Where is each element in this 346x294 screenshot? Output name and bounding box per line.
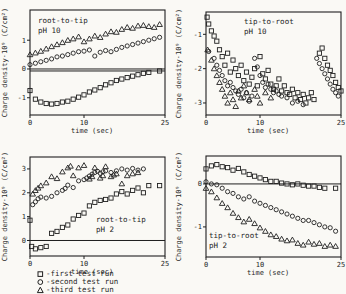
triangle-marker (217, 80, 223, 85)
triangle-marker (230, 97, 236, 102)
circle-marker (125, 44, 129, 48)
circle-marker (231, 191, 235, 195)
y-axis-label: Charge density·10⁹ (C/cm²) (1, 8, 9, 118)
square-marker (334, 186, 338, 190)
y-axis-label: Charge density·10⁹ (C/cm²) (175, 152, 183, 262)
circle-marker (120, 45, 124, 49)
circle-marker (242, 197, 246, 201)
square-marker (258, 176, 262, 180)
series-square (204, 162, 338, 190)
circle-marker (317, 61, 321, 65)
square-marker (247, 172, 251, 176)
y-tick-label: -2 (194, 65, 202, 73)
legend-item-label: -third test run (46, 286, 114, 294)
y-tick-label: 0 (198, 180, 202, 188)
circle-marker (217, 68, 221, 72)
y-tick-label: -1 (194, 223, 202, 231)
circle-marker (71, 185, 75, 189)
x-tick-label: 10 (80, 260, 88, 268)
triangle-marker (33, 50, 39, 55)
square-marker (39, 246, 43, 250)
circle-marker (334, 229, 338, 233)
triangle-marker (300, 242, 306, 247)
circle-marker (280, 210, 284, 214)
circle-marker (125, 168, 129, 172)
square-marker (109, 196, 113, 200)
chart-1-subtitle: pH 10 (244, 27, 267, 36)
circle-marker (131, 42, 135, 46)
triangle-marker (228, 90, 234, 95)
triangle-marker (322, 244, 328, 249)
triangle-marker (211, 66, 217, 71)
square-marker (290, 87, 294, 91)
circle-marker (266, 82, 270, 86)
chart-2: 321001025time (sec)Charge density·10⁹ (C… (1, 152, 169, 276)
chart-0: 10-101025time (sec)Charge density·10⁹ (C… (1, 8, 169, 135)
x-tick-label: 25 (337, 119, 345, 127)
square-marker (209, 29, 213, 33)
circle-marker (312, 221, 316, 225)
chart-0-title: root-to-tip (38, 16, 88, 25)
square-marker (131, 188, 135, 192)
circle-marker (39, 60, 43, 64)
square-marker (226, 51, 230, 55)
square-marker (274, 179, 278, 183)
circle-marker (93, 54, 97, 58)
triangle-marker (146, 24, 152, 29)
square-marker (50, 102, 54, 106)
triangle-marker (92, 33, 98, 38)
triangle-marker (333, 244, 339, 249)
circle-marker (55, 55, 59, 59)
square-marker (266, 68, 270, 72)
square-marker-icon (36, 270, 45, 278)
triangle-marker (230, 210, 236, 215)
x-tick-label: 10 (80, 119, 88, 127)
square-marker (307, 96, 311, 100)
triangle-marker (103, 31, 109, 36)
x-tick-label: 0 (28, 119, 32, 127)
triangle-marker-icon (36, 286, 45, 294)
circle-marker (290, 214, 294, 218)
triangle-marker (124, 25, 130, 30)
circle-marker (131, 166, 135, 170)
circle-marker (325, 77, 329, 81)
triangle-marker (76, 34, 82, 39)
chart-2-title: root-to-tip (96, 215, 146, 224)
triangle-marker (317, 241, 323, 246)
triangle-marker (151, 25, 157, 30)
x-tick-label: 0 (204, 119, 208, 127)
square-marker (104, 197, 108, 201)
square-marker (77, 213, 81, 217)
square-marker (125, 192, 129, 196)
circle-marker (152, 37, 156, 41)
circle-marker (258, 201, 262, 205)
square-marker (136, 73, 140, 77)
triangle-marker (209, 189, 215, 194)
square-marker (307, 184, 311, 188)
square-marker (60, 100, 64, 104)
triangle-marker (233, 104, 239, 109)
triangle-marker (43, 46, 49, 51)
square-marker (209, 164, 213, 168)
series-circle (31, 166, 146, 206)
legend: -first test run -second test run -third … (36, 270, 118, 294)
circle-marker (290, 101, 294, 105)
square-marker (33, 97, 37, 101)
circle-marker (315, 56, 319, 60)
triangle-marker (263, 229, 269, 234)
circle-marker (98, 50, 102, 54)
square-marker (215, 39, 219, 43)
x-axis-label: time (sec) (71, 127, 113, 135)
triangle-marker (60, 40, 66, 45)
chart-3: 0-101025time (sec)Charge density·10⁹ (C/… (175, 152, 345, 277)
circle-marker (263, 203, 267, 207)
circle-marker (336, 94, 340, 98)
triangle-marker (114, 29, 120, 34)
series-square (28, 69, 162, 106)
circle-marker (220, 73, 224, 77)
triangle-marker (49, 44, 55, 49)
triangle-marker (135, 23, 141, 28)
square-marker (87, 204, 91, 208)
square-marker (253, 174, 257, 178)
